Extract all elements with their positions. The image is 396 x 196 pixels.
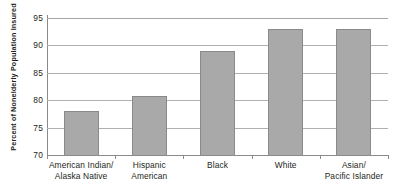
y-tick-label-90: 90 [21,40,43,50]
x-axis-category-labels: American Indian/Alaska NativeHispanicAme… [47,160,388,194]
x-tick [115,155,116,159]
category-label-line: American [101,171,197,182]
x-axis-line [47,155,388,156]
bar [268,29,303,156]
category-label-line: Asian/ [306,160,396,171]
x-tick [47,155,48,159]
category-label: Asian/Pacific Islander [306,160,396,181]
category-label-line: Pacific Islander [306,171,396,182]
y-tick-label-95: 95 [21,13,43,23]
bar [64,111,99,156]
y-tick-label-80: 80 [21,95,43,105]
x-tick [320,155,321,159]
bars-group [47,18,388,155]
x-tick [388,155,389,159]
bar-chart: Percent of Nonelderly Population Insured… [0,0,396,196]
y-tick-label-75: 75 [21,123,43,133]
bar [336,29,371,156]
plot-area [47,18,388,155]
y-tick-label-70: 70 [21,150,43,160]
bar [200,51,235,156]
y-tick-label-85: 85 [21,68,43,78]
x-tick [252,155,253,159]
bar [132,96,167,156]
x-tick [183,155,184,159]
